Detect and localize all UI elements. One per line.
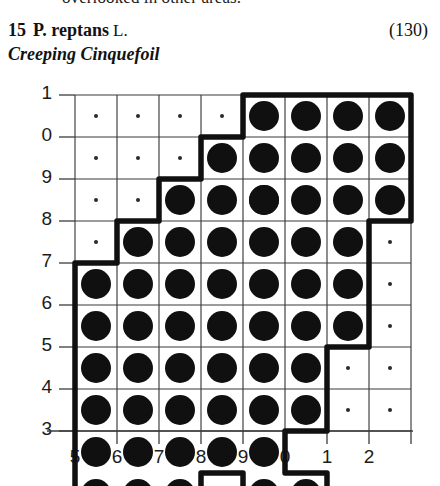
y-tick-label: 1 xyxy=(30,82,52,104)
presence-marker xyxy=(375,143,405,173)
presence-marker xyxy=(207,395,237,425)
absence-marker xyxy=(94,156,98,160)
presence-marker xyxy=(207,311,237,341)
presence-marker xyxy=(165,269,195,299)
absence-marker xyxy=(388,324,392,328)
presence-marker xyxy=(249,437,279,467)
y-tick-label: 5 xyxy=(30,334,52,356)
presence-marker xyxy=(207,185,237,215)
absence-marker xyxy=(346,408,350,412)
presence-marker xyxy=(249,269,279,299)
presence-marker xyxy=(291,269,321,299)
y-tick-label: 6 xyxy=(30,292,52,314)
absence-marker xyxy=(388,408,392,412)
presence-marker xyxy=(207,143,237,173)
presence-marker xyxy=(291,143,321,173)
presence-marker xyxy=(291,395,321,425)
presence-marker xyxy=(249,227,279,257)
presence-marker xyxy=(165,185,195,215)
presence-marker xyxy=(249,101,279,131)
map-plot-area xyxy=(75,95,411,431)
presence-marker xyxy=(249,185,279,215)
presence-marker xyxy=(207,353,237,383)
presence-marker xyxy=(207,227,237,257)
absence-marker xyxy=(388,366,392,370)
y-tick-label: 9 xyxy=(30,166,52,188)
presence-marker xyxy=(123,227,153,257)
presence-marker xyxy=(123,395,153,425)
presence-marker xyxy=(207,269,237,299)
presence-marker xyxy=(291,479,321,486)
presence-marker xyxy=(249,143,279,173)
presence-marker xyxy=(375,185,405,215)
presence-marker xyxy=(333,227,363,257)
absence-marker xyxy=(388,240,392,244)
y-tick-label: 3 xyxy=(30,418,52,440)
y-tick-label: 8 xyxy=(30,208,52,230)
presence-marker xyxy=(123,353,153,383)
presence-marker xyxy=(249,395,279,425)
absence-marker xyxy=(136,156,140,160)
presence-marker xyxy=(123,479,153,486)
absence-marker xyxy=(94,114,98,118)
absence-marker xyxy=(388,282,392,286)
presence-marker xyxy=(333,143,363,173)
presence-marker xyxy=(165,353,195,383)
presence-marker xyxy=(81,311,111,341)
presence-marker xyxy=(333,101,363,131)
presence-marker xyxy=(165,437,195,467)
presence-marker xyxy=(249,353,279,383)
presence-marker xyxy=(291,311,321,341)
presence-marker xyxy=(207,437,237,467)
presence-marker xyxy=(333,185,363,215)
absence-marker xyxy=(136,114,140,118)
absence-marker xyxy=(346,366,350,370)
absence-marker xyxy=(178,156,182,160)
absence-marker xyxy=(136,198,140,202)
absence-marker xyxy=(178,114,182,118)
x-tick-label: 1 xyxy=(316,446,338,468)
presence-marker xyxy=(165,395,195,425)
presence-marker xyxy=(249,311,279,341)
presence-marker xyxy=(291,353,321,383)
presence-marker xyxy=(165,227,195,257)
presence-marker xyxy=(123,437,153,467)
y-tick-label: 7 xyxy=(30,250,52,272)
y-tick-label: 4 xyxy=(30,376,52,398)
presence-marker xyxy=(333,311,363,341)
presence-marker xyxy=(375,101,405,131)
x-tick-label: 2 xyxy=(358,446,380,468)
presence-marker xyxy=(81,437,111,467)
presence-marker xyxy=(123,269,153,299)
presence-marker xyxy=(81,269,111,299)
presence-marker xyxy=(81,479,111,486)
y-tick-label: 0 xyxy=(30,124,52,146)
absence-marker xyxy=(94,198,98,202)
map-symbol-layer xyxy=(75,95,411,431)
presence-marker xyxy=(81,395,111,425)
presence-marker xyxy=(291,101,321,131)
presence-marker xyxy=(249,479,279,486)
presence-marker xyxy=(81,353,111,383)
presence-marker xyxy=(123,311,153,341)
absence-marker xyxy=(220,114,224,118)
distribution-map: 56789012 109876543 xyxy=(0,0,440,486)
presence-marker xyxy=(165,311,195,341)
presence-marker xyxy=(165,479,195,486)
presence-marker xyxy=(333,269,363,299)
presence-marker xyxy=(291,185,321,215)
absence-marker xyxy=(94,240,98,244)
presence-marker xyxy=(291,227,321,257)
